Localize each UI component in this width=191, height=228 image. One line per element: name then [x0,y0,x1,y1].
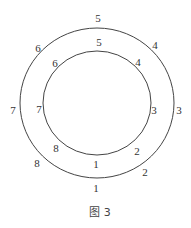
inner-label-3: 3 [151,104,157,116]
inner-label-8: 8 [53,142,59,154]
concentric-circles-diagram: 54321876 54321876 图 3 [0,0,191,228]
inner-label-5: 5 [96,36,102,48]
outer-label-2: 2 [142,166,148,178]
outer-label-5: 5 [95,12,101,24]
inner-label-6: 6 [52,57,58,69]
outer-label-7: 7 [10,104,16,116]
outer-label-4: 4 [152,39,158,51]
inner-label-1: 1 [93,158,99,170]
inner-circle-labels: 54321876 [36,36,157,170]
outer-label-1: 1 [93,182,99,194]
inner-label-7: 7 [36,103,42,115]
inner-label-4: 4 [135,56,141,68]
outer-label-3: 3 [176,104,182,116]
outer-label-6: 6 [35,42,41,54]
outer-label-8: 8 [34,157,40,169]
figure-caption: 图 3 [89,206,111,219]
inner-label-2: 2 [134,145,140,157]
